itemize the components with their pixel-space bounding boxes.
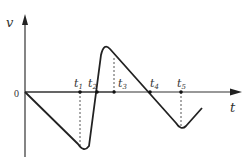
t1-label: t1 [74, 77, 83, 91]
velocity-time-graph: v t 0 t1 t2 t3 t4 t5 [0, 0, 246, 163]
t3-point [112, 90, 116, 94]
t4-label: t4 [150, 77, 159, 91]
t5-label: t5 [177, 77, 186, 91]
origin-label: 0 [14, 88, 19, 99]
x-axis-arrow-icon [230, 89, 242, 96]
x-axis-label: t [230, 100, 236, 115]
velocity-curve [25, 47, 202, 150]
t4-point [148, 90, 152, 94]
y-axis-label: v [6, 15, 14, 30]
t2-label: t2 [88, 77, 97, 91]
t3-label: t3 [118, 77, 127, 91]
y-axis-arrow-icon [22, 14, 28, 25]
